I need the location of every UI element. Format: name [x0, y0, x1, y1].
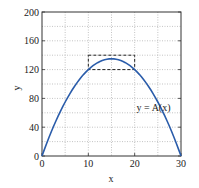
- x-tick-label: 30: [176, 158, 186, 169]
- y-tick-label: 160: [24, 35, 39, 46]
- y-tick-label: 40: [29, 122, 39, 133]
- y-tick-label: 120: [24, 64, 39, 75]
- y-axis-label: y: [11, 86, 22, 91]
- x-tick-label: 20: [130, 158, 140, 169]
- grid-lines: [42, 12, 181, 156]
- x-tick-label: 10: [83, 158, 93, 169]
- chart: 010203004080120160200 y = A(x) x y: [0, 0, 199, 188]
- curve-label: y = A(x): [137, 102, 171, 114]
- x-tick-label: 0: [40, 158, 45, 169]
- x-axis-label: x: [109, 173, 114, 184]
- y-tick-label: 80: [29, 93, 39, 104]
- y-tick-label: 0: [34, 151, 39, 162]
- y-tick-label: 200: [24, 7, 39, 18]
- axis-ticks: 010203004080120160200: [24, 7, 186, 170]
